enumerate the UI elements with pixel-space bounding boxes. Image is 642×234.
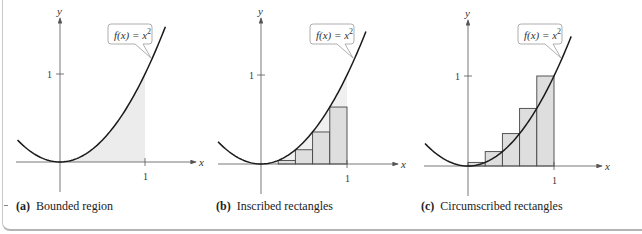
panel-c-graph: x y 1 1 f(x) = x2	[424, 7, 610, 196]
riemann-rectangle	[520, 108, 537, 166]
panel-b-graph: x y 1 1 f(x) = x2	[218, 5, 406, 194]
caption-letter: (c)	[421, 199, 434, 213]
function-callout: f(x) = x2	[108, 24, 152, 58]
y-axis-label: y	[257, 5, 263, 17]
caption-a: (a) Bounded region	[16, 199, 113, 214]
svg-text:f(x) = x2: f(x) = x2	[114, 27, 151, 42]
caption-letter: (b)	[216, 199, 231, 213]
x-tick-label: 1	[143, 171, 148, 182]
riemann-rectangle	[278, 160, 295, 164]
function-callout: f(x) = x2	[310, 24, 354, 58]
caption-c: (c) Circumscribed rectangles	[421, 199, 563, 214]
panel-a-graph: x y 1 1 f(x) = x2	[16, 5, 204, 192]
x-axis-label: x	[604, 160, 610, 172]
caption-text: Inscribed rectangles	[237, 199, 333, 213]
x-axis-label: x	[198, 156, 204, 168]
x-tick-label: 1	[345, 173, 350, 184]
y-axis-label: y	[56, 5, 62, 17]
riemann-rectangle	[295, 150, 312, 164]
svg-text:f(x) = x2: f(x) = x2	[316, 27, 353, 42]
caption-text: Bounded region	[36, 199, 113, 213]
y-tick-label: 1	[249, 70, 254, 81]
riemann-rectangle	[537, 76, 554, 166]
y-axis-label: y	[464, 7, 470, 19]
caption-text: Circumscribed rectangles	[440, 199, 562, 213]
caption-b: (b) Inscribed rectangles	[216, 199, 333, 214]
caption-letter: (a)	[16, 199, 30, 213]
circumscribed-rectangles	[468, 76, 554, 166]
shaded-region	[60, 74, 145, 162]
y-tick-label: 1	[47, 69, 52, 80]
svg-text:f(x) = x2: f(x) = x2	[524, 27, 561, 42]
x-tick-label: 1	[552, 175, 557, 186]
y-tick-label: 1	[455, 71, 460, 82]
riemann-rectangle	[330, 107, 347, 164]
function-callout: f(x) = x2	[518, 24, 562, 58]
x-axis-label: x	[400, 158, 406, 170]
riemann-rectangle	[313, 132, 330, 164]
